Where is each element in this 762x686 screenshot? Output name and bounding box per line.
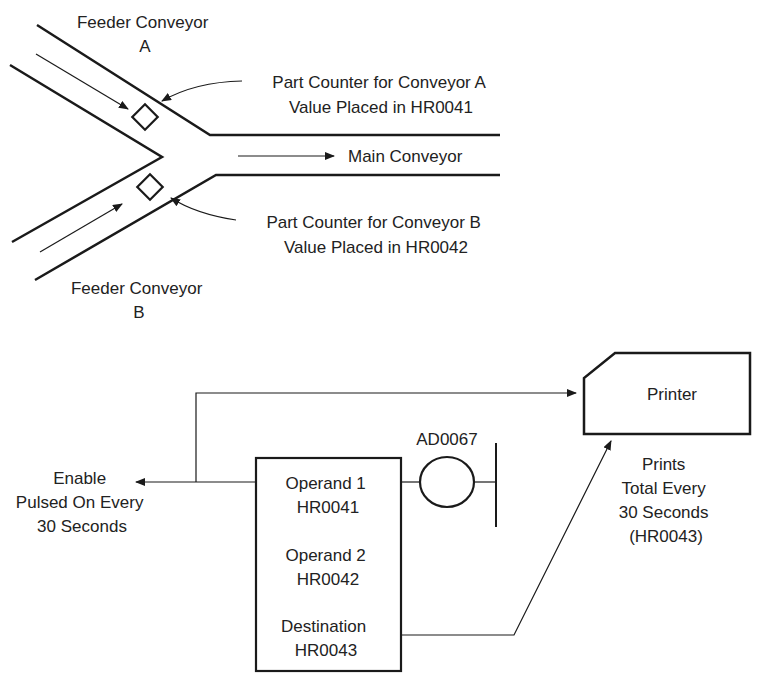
counter-b-label: Part Counter for Conveyor B Value Placed… [266,213,485,257]
feeder-a-label: Feeder Conveyor A [77,13,213,56]
conveyor-inner-vee [10,65,162,242]
destination-label: Destination HR0043 [281,617,371,660]
enable-label: Enable Pulsed On Every 30 Seconds [16,469,148,536]
printer-feed-line [196,393,576,482]
operand-2-label: Operand 2 HR0042 [285,546,370,589]
printer-label: Printer [647,385,697,404]
operand-1-label: Operand 1 HR0041 [285,474,370,517]
feeder-b-label: Feeder Conveyor B [71,279,207,322]
callout-arrow-b [171,198,236,220]
main-conveyor-label: Main Conveyor [348,147,463,166]
flow-arrow-a [36,54,128,109]
counter-a-label: Part Counter for Conveyor A Value Placed… [272,73,489,117]
flow-arrow-b [40,204,122,252]
destination-to-printer-line [401,441,611,635]
printer-note-label: Prints Total Every 30 Seconds (HR0043) [619,455,714,546]
part-counter-a-icon [132,104,157,129]
coil-icon [420,457,474,507]
part-counter-b-icon [137,174,162,199]
callout-arrow-a [162,81,242,101]
coil-address-label: AD0067 [416,430,477,449]
diagram-canvas: Feeder Conveyor A Part Counter for Conve… [0,0,762,686]
